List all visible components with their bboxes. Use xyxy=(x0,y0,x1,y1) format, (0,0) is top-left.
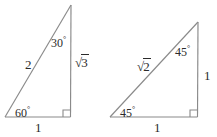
side-value-1-right-base: 1 xyxy=(154,120,161,135)
radical-sqrt-2: √2 xyxy=(136,60,151,73)
side-label-base-1-left: 1 xyxy=(35,121,42,134)
angle-value-30: 30 xyxy=(51,36,63,50)
side-label-hypotenuse-2: 2 xyxy=(25,58,32,71)
radicand-value-3: 3 xyxy=(81,54,89,70)
angle-label-45-degrees-bottom: 45° xyxy=(120,106,135,119)
side-label-sqrt-3: √3 xyxy=(74,56,89,69)
degree-symbol-60: ° xyxy=(27,105,30,114)
degree-symbol-45-bottom: ° xyxy=(132,105,135,114)
side-label-sqrt-2: √2 xyxy=(136,60,151,73)
triangle-left-vertical-leg xyxy=(71,5,72,117)
angle-value-45-apex: 45 xyxy=(175,45,187,59)
angle-label-30-degrees: 30° xyxy=(51,36,66,49)
radical-sqrt-3: √3 xyxy=(74,56,89,69)
figure-canvas: 60° 30° 2 √3 1 45° 45° √2 1 1 xyxy=(0,0,217,137)
triangle-left-hypotenuse xyxy=(5,5,71,117)
side-value-2: 2 xyxy=(25,57,32,72)
angle-label-60-degrees: 60° xyxy=(15,106,30,119)
angle-label-45-degrees-apex: 45° xyxy=(175,45,190,58)
radicand-value-2: 2 xyxy=(143,58,151,74)
triangle-30-60-90-shape xyxy=(5,5,71,117)
degree-symbol-45-apex: ° xyxy=(187,44,190,53)
side-value-1-left-base: 1 xyxy=(35,120,42,135)
angle-value-45-bottom: 45 xyxy=(120,106,132,120)
triangles-drawing xyxy=(0,0,217,137)
side-label-base-1-right: 1 xyxy=(154,121,161,134)
angle-value-60: 60 xyxy=(15,106,27,120)
right-angle-marker-left xyxy=(63,110,70,117)
right-angle-marker-right xyxy=(190,110,197,117)
side-label-vertical-1-right: 1 xyxy=(204,69,211,82)
triangle-45-45-90-shape xyxy=(110,22,198,117)
side-value-1-right-vertical: 1 xyxy=(204,68,211,83)
triangle-right-vertical-leg xyxy=(198,22,199,117)
degree-symbol-30: ° xyxy=(63,35,66,44)
triangle-right-hypotenuse xyxy=(110,22,198,117)
